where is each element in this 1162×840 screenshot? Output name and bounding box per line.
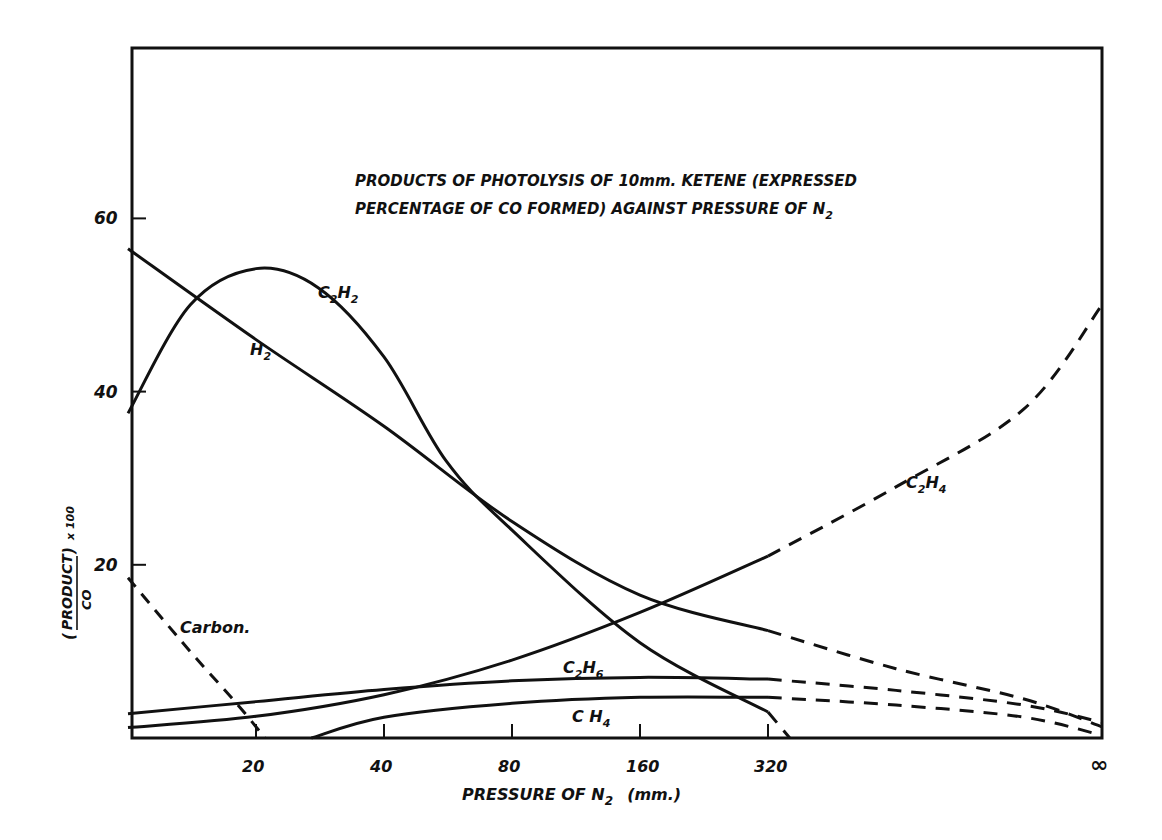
axis-ticks: 204080160320∞204060	[93, 208, 1108, 777]
curve-c2h2	[128, 268, 768, 712]
y-axis-paren-close: )	[60, 547, 78, 555]
label-c2h4: C2H4	[906, 473, 946, 496]
curve-ch4	[311, 697, 768, 738]
y-axis-denominator: CO	[79, 589, 94, 610]
y-axis-label: ( PRODUCT CO ) x 100	[59, 506, 94, 640]
y-axis-numerator: PRODUCT	[59, 553, 75, 630]
curve-h2	[128, 249, 768, 631]
label-ch4: C H4	[572, 707, 610, 730]
y-tick-label: 20	[94, 555, 118, 575]
x-tick-label: 20	[242, 757, 264, 776]
curve-c2h2-extrapolated	[768, 712, 790, 738]
x-tick-label: 80	[498, 757, 520, 776]
curve-c2h4-extrapolated	[768, 305, 1102, 556]
chart-figure: 204080160320∞204060 PRODUCTS OF PHOTOLYS…	[0, 0, 1162, 840]
plot-frame	[132, 48, 1102, 738]
curve-h2-extrapolated	[768, 631, 1102, 727]
data-curves	[128, 249, 1102, 738]
x-tick-label: 320	[754, 757, 787, 776]
curve-c2h4	[128, 556, 768, 727]
y-axis-factor: x 100	[64, 506, 77, 541]
chart-title: PRODUCTS OF PHOTOLYSIS OF 10mm. KETENE (…	[355, 172, 857, 222]
curve-labels: H2C2H2C2H4C2H6C H4Carbon.	[180, 283, 946, 730]
x-axis-title: PRESSURE OF N2(mm.)	[462, 785, 681, 808]
x-tick-label: ∞	[1090, 752, 1108, 777]
label-carbon: Carbon.	[180, 618, 250, 637]
curve-ch4-extrapolated	[768, 697, 1102, 735]
title-line-1: PRODUCTS OF PHOTOLYSIS OF 10mm. KETENE (…	[355, 172, 857, 190]
x-tick-label: 40	[369, 757, 392, 776]
y-tick-label: 60	[94, 208, 118, 228]
label-h2: H2	[250, 340, 271, 363]
y-tick-label: 40	[93, 382, 118, 402]
x-axis-label: PRESSURE OF N2(mm.)	[462, 785, 681, 808]
x-tick-label: 160	[626, 757, 659, 776]
y-axis-paren-open: (	[60, 632, 78, 640]
curve-carbon	[128, 578, 265, 738]
title-line-2: PERCENTAGE OF CO FORMED) AGAINST PRESSUR…	[355, 200, 833, 222]
